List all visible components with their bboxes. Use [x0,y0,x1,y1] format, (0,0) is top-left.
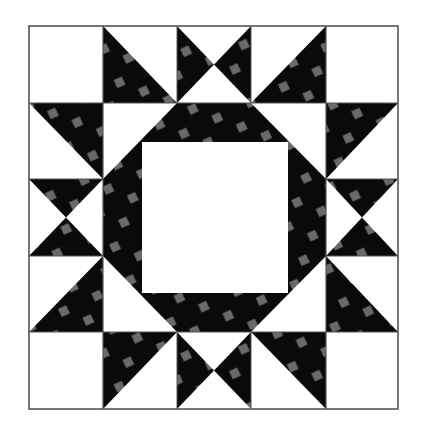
center-square [142,142,288,293]
quilt-block-figure [0,0,423,425]
